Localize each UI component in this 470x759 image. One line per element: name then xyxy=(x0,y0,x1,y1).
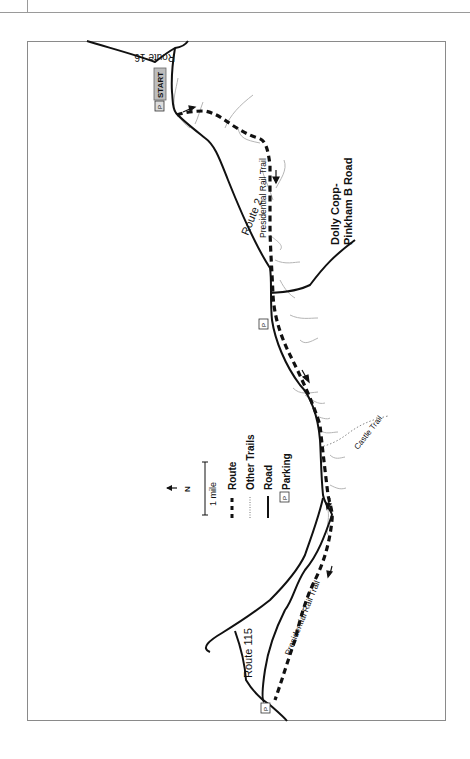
legend-route-label: Route xyxy=(227,461,238,490)
legend-item-route: Route xyxy=(227,461,238,518)
route115-label: Route 115 xyxy=(242,628,254,678)
parking-marker-start[interactable]: P xyxy=(155,101,164,111)
parking-p: P xyxy=(282,496,288,500)
north-arrow: N xyxy=(166,485,192,492)
legend-item-other-trails: Other Trails xyxy=(245,434,256,518)
trail-map: START P P P Route 16 Route 2 Presidentia… xyxy=(0,0,470,759)
map-legend: N 1 mile Route Other Trails Road P Parki… xyxy=(166,434,292,518)
legend-item-parking: P Parking xyxy=(280,453,292,502)
presidential-rail-trail-label-1: Presidential Rail Trail xyxy=(258,158,268,238)
start-marker[interactable]: START xyxy=(154,68,166,100)
scale-bar: 1 mile xyxy=(202,462,218,515)
legend-parking-label: Parking xyxy=(281,453,292,490)
route16-label: Route 16 xyxy=(134,52,175,63)
parking-p: P xyxy=(263,707,269,711)
north-label: N xyxy=(183,486,192,492)
parking-p: P xyxy=(261,323,267,327)
parking-marker-mid[interactable]: P xyxy=(259,319,268,329)
roads xyxy=(87,41,355,721)
parking-p: P xyxy=(157,105,163,109)
dolly-copp-label-2: Pinkham B Road xyxy=(342,158,354,245)
parking-marker-end[interactable]: P xyxy=(261,703,270,713)
legend-item-road: Road xyxy=(263,465,274,518)
legend-other-trails-label: Other Trails xyxy=(245,434,256,490)
dolly-copp-label-1: Dolly Copp- xyxy=(329,183,341,245)
castle-trail-label: Castle Trail xyxy=(352,414,384,451)
start-label: START xyxy=(156,72,165,98)
legend-road-label: Road xyxy=(263,465,274,490)
presidential-rail-trail-label-2: Presidential Rail Trail xyxy=(283,579,322,657)
scale-label: 1 mile xyxy=(208,482,218,506)
